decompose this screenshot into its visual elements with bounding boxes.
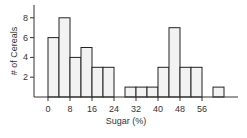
y-axis-ticks: 2468 (23, 13, 34, 82)
x-tick-label: 24 (109, 104, 119, 114)
histogram-bar (213, 87, 224, 97)
y-tick-label: 4 (23, 52, 28, 62)
histogram-bar (92, 67, 103, 97)
histogram-chart: 2468 08162432404856 Sugar (%) # of Cerea… (0, 0, 247, 138)
histogram-bar (147, 87, 158, 97)
x-axis-ticks: 08162432404856 (45, 97, 207, 114)
histogram-bar (158, 67, 169, 97)
x-axis-label: Sugar (%) (106, 116, 147, 126)
x-tick-label: 32 (131, 104, 141, 114)
y-axis-label: # of Cereals (9, 26, 19, 75)
histogram-bar (59, 18, 70, 97)
histogram-bar (180, 67, 191, 97)
histogram-bar (169, 28, 180, 97)
histogram-bar (136, 87, 147, 97)
y-tick-label: 2 (23, 72, 28, 82)
x-tick-label: 40 (153, 104, 163, 114)
x-tick-label: 48 (175, 104, 185, 114)
histogram-bars (48, 18, 224, 97)
x-tick-label: 8 (67, 104, 72, 114)
histogram-bar (70, 57, 81, 97)
x-tick-label: 0 (45, 104, 50, 114)
histogram-bar (103, 67, 114, 97)
histogram-bar (48, 38, 59, 97)
histogram-bar (81, 48, 92, 98)
x-tick-label: 56 (197, 104, 207, 114)
x-tick-label: 16 (87, 104, 97, 114)
histogram-bar (125, 87, 136, 97)
histogram-bar (191, 67, 202, 97)
y-tick-label: 6 (23, 33, 28, 43)
y-tick-label: 8 (23, 13, 28, 23)
